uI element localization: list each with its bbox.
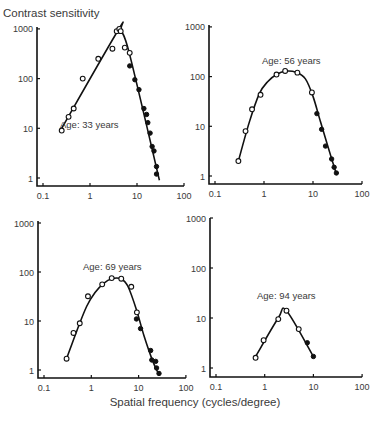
open-data-point — [261, 338, 266, 343]
open-data-point — [243, 129, 248, 134]
fit-curve — [238, 71, 336, 174]
open-data-point — [64, 356, 69, 361]
y-tick-label: 1000 — [13, 24, 33, 34]
chart-panel-4: 11010010000.1110100Age: 94 years — [186, 214, 370, 393]
y-tick-label: 10 — [196, 314, 206, 324]
open-data-point — [109, 276, 114, 281]
filled-data-point — [154, 366, 158, 370]
axes — [209, 25, 362, 184]
x-tick-label: 100 — [355, 382, 370, 392]
open-data-point — [122, 45, 127, 50]
filled-data-point — [311, 354, 315, 358]
y-tick-label: 1000 — [185, 22, 205, 32]
filled-data-point — [148, 131, 152, 135]
open-data-point — [295, 70, 300, 75]
x-tick-label: 0.1 — [210, 382, 223, 392]
open-data-point — [86, 294, 91, 299]
open-data-point — [100, 282, 105, 287]
x-tick-label: 10 — [308, 189, 318, 199]
open-data-point — [283, 69, 288, 74]
x-tick-label: 10 — [308, 382, 318, 392]
y-tick-label: 100 — [18, 74, 33, 84]
age-label: Age: 69 years — [83, 261, 142, 272]
y-tick-label: 1 — [201, 364, 206, 374]
open-data-point — [236, 159, 241, 164]
y-tick-label: 100 — [19, 268, 34, 278]
open-data-point — [129, 284, 134, 289]
y-tick-label: 100 — [191, 264, 206, 274]
open-data-point — [284, 308, 289, 313]
filled-data-point — [138, 326, 142, 330]
filled-data-point — [154, 164, 158, 168]
filled-data-point — [154, 172, 158, 176]
filled-data-point — [329, 157, 333, 161]
x-tick-label: 1 — [89, 383, 94, 393]
x-axis-title: Spatial frequency (cycles/degree) — [110, 396, 281, 408]
x-tick-label: 0.1 — [38, 383, 51, 393]
axes — [38, 221, 186, 378]
filled-data-point — [133, 78, 137, 82]
y-tick-label: 100 — [190, 72, 205, 82]
filled-data-point — [146, 120, 150, 124]
x-tick-label: 1 — [262, 382, 267, 392]
filled-data-point — [305, 341, 309, 345]
filled-data-point — [134, 317, 138, 321]
y-tick-label: 1 — [28, 174, 33, 184]
filled-data-point — [334, 171, 338, 175]
x-tick-label: 100 — [176, 191, 191, 201]
open-data-point — [134, 310, 139, 315]
age-label: Age: 33 years — [60, 119, 119, 130]
x-tick-label: 100 — [354, 189, 369, 199]
filled-data-point — [152, 149, 156, 153]
open-data-point — [250, 107, 255, 112]
fit-curve — [62, 22, 160, 180]
y-tick-label: 10 — [23, 124, 33, 134]
filled-data-point — [137, 87, 141, 91]
open-data-point — [96, 56, 101, 61]
open-data-point — [276, 317, 281, 322]
contrast-sensitivity-figure: Contrast sensitivity 11010010000.1110100… — [0, 0, 381, 421]
x-tick-label: 10 — [134, 383, 144, 393]
x-tick-label: 100 — [178, 383, 193, 393]
filled-data-point — [315, 111, 319, 115]
chart-panel-3: 11010010000.1110100Age: 69 years — [14, 219, 193, 394]
filled-data-point — [128, 64, 132, 68]
open-data-point — [274, 72, 279, 77]
open-data-point — [110, 46, 115, 51]
x-tick-label: 0.1 — [209, 189, 222, 199]
x-tick-label: 1 — [87, 191, 92, 201]
y-tick-label: 10 — [24, 317, 34, 327]
filled-data-point — [148, 348, 152, 352]
open-data-point — [118, 29, 123, 34]
open-data-point — [77, 321, 82, 326]
open-data-point — [258, 92, 263, 97]
chart-panel-2: 11010010000.1110100Age: 56 years — [185, 22, 370, 199]
filled-data-point — [319, 127, 323, 131]
open-data-point — [253, 355, 258, 360]
y-tick-label: 10 — [195, 122, 205, 132]
filled-data-point — [142, 106, 146, 110]
y-tick-label: 1000 — [14, 219, 34, 229]
y-tick-label: 1000 — [186, 214, 206, 224]
chart-panels: 11010010000.1110100Age: 33 years11010010… — [13, 22, 370, 393]
age-label: Age: 56 years — [262, 55, 321, 66]
open-data-point — [71, 106, 76, 111]
filled-data-point — [332, 165, 336, 169]
filled-data-point — [144, 112, 148, 116]
open-data-point — [127, 50, 132, 55]
filled-data-point — [323, 144, 327, 148]
fit-curve — [67, 278, 159, 375]
open-data-point — [80, 76, 85, 81]
open-data-point — [296, 327, 301, 332]
open-data-point — [71, 331, 76, 336]
x-tick-label: 0.1 — [37, 191, 50, 201]
filled-data-point — [154, 359, 158, 363]
filled-data-point — [150, 144, 154, 148]
open-data-point — [310, 90, 315, 95]
y-axis-title: Contrast sensitivity — [3, 7, 100, 19]
fit-curve — [256, 308, 314, 356]
x-tick-label: 1 — [261, 189, 266, 199]
open-data-point — [119, 276, 124, 281]
chart-panel-1: 11010010000.1110100Age: 33 years — [13, 22, 192, 201]
y-tick-label: 1 — [200, 172, 205, 182]
